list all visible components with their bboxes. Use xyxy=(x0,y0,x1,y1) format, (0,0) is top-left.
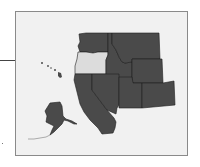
state-alaska[interactable] xyxy=(45,102,77,135)
western-states-map xyxy=(0,0,200,167)
state-oregon[interactable] xyxy=(75,52,108,74)
alaska-aleutian-islands xyxy=(28,135,50,139)
state-washington[interactable] xyxy=(78,33,108,53)
state-colorado[interactable] xyxy=(142,81,175,108)
state-hawaii[interactable] xyxy=(41,62,62,78)
state-wyoming[interactable] xyxy=(132,59,163,83)
